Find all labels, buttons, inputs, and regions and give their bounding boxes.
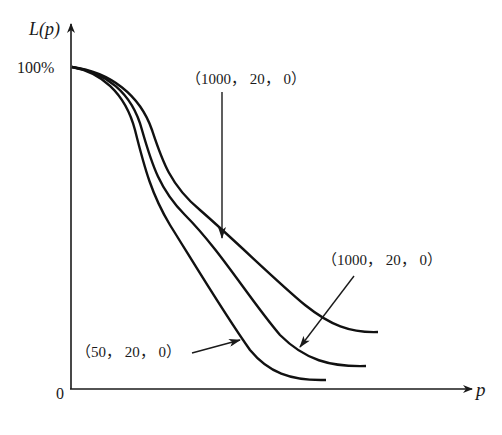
y-tick-100: 100% bbox=[17, 60, 54, 76]
x-axis-label: p bbox=[476, 380, 486, 399]
curve-lower bbox=[72, 67, 326, 380]
origin-label: 0 bbox=[56, 386, 64, 402]
arrow-annotation-lower bbox=[192, 340, 240, 353]
annotation-top: （1000， 20， 0） bbox=[186, 72, 306, 87]
annotation-middle: （1000， 20， 0） bbox=[322, 253, 442, 268]
curve-middle bbox=[72, 67, 366, 366]
curve-upper bbox=[72, 67, 378, 332]
arrow-annotation-middle bbox=[300, 276, 354, 347]
y-axis-label: L(p) bbox=[29, 20, 60, 38]
annotation-lower: （50， 20， 0） bbox=[76, 345, 181, 360]
chart-canvas bbox=[0, 0, 502, 435]
